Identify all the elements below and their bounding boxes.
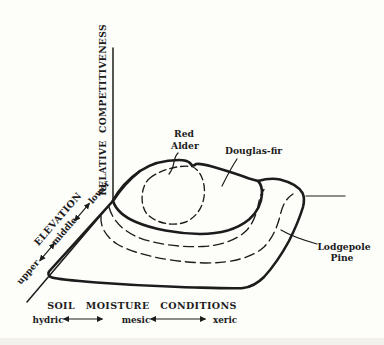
lodgepole-pine-label-line2: Pine bbox=[331, 252, 354, 263]
figure-canvas: RELATIVE COMPETITIVENESS ELEVATION upper… bbox=[0, 0, 384, 345]
moisture-tick-xeric: xeric bbox=[213, 315, 237, 325]
douglas-fir-upper-contour bbox=[142, 166, 204, 224]
elevation-arrow-middle-lower bbox=[75, 204, 89, 221]
lodgepole-pine-label-line1: Lodgepole bbox=[317, 241, 370, 252]
niche-diagram: RELATIVE COMPETITIVENESS ELEVATION upper… bbox=[0, 0, 384, 345]
douglas-fir-label: Douglas-fir bbox=[225, 145, 282, 156]
elevation-tick-upper: upper bbox=[15, 258, 42, 287]
red-alder-label-line1: Red bbox=[174, 128, 194, 139]
moisture-tick-mesic: mesic bbox=[122, 315, 151, 325]
lodgepole-pine-pointer-line bbox=[281, 230, 317, 244]
y-axis-label: RELATIVE COMPETITIVENESS bbox=[97, 24, 108, 196]
douglas-fir-outer-contour bbox=[101, 194, 293, 263]
red-alder-pointer-line bbox=[169, 153, 178, 174]
elevation-arrow-upper-middle bbox=[40, 244, 54, 261]
scan-artifact-band bbox=[0, 338, 384, 345]
moisture-tick-hydric: hydric bbox=[33, 315, 64, 325]
moisture-axis-label: SOIL MOISTURE CONDITIONS bbox=[47, 300, 237, 311]
red-alder-dome-outline bbox=[113, 171, 262, 234]
red-alder-label-line2: Alder bbox=[170, 140, 199, 151]
douglas-fir-middle-contour bbox=[109, 190, 264, 247]
